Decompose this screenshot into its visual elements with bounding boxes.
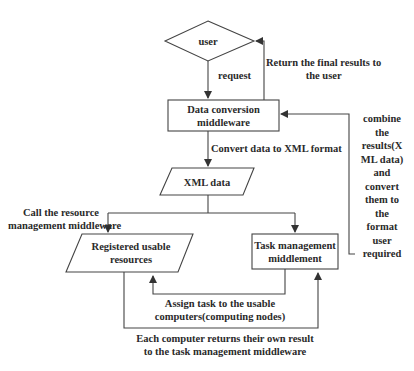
combine-results-label: combine the results(X ML data) and conve… [353,112,411,261]
xml-data-node: XML data [160,174,254,190]
each-computer-returns-label: Each computer returns their own result t… [130,332,320,358]
assign-task-label: Assign task to the usable computers(comp… [150,297,290,323]
registered-usable-resources-node: Registered usable resources [76,236,186,270]
user-node: user [170,33,246,49]
request-label: request [218,69,251,82]
call-resource-label: Call the resource management middleware [16,206,106,232]
data-conversion-middleware-node: Data conversion middleware [168,100,279,131]
flowchart-canvas: user request Return the final results to… [0,0,414,371]
convert-xml-label: Convert data to XML format [211,142,342,155]
task-management-middleware-node: Task management middlement [252,234,338,269]
user-label: user [198,35,217,48]
return-results-label: Return the final results to the user [266,56,381,82]
